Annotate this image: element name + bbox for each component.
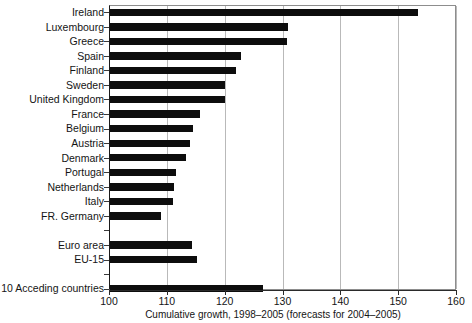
bar-row: Netherlands [0, 180, 472, 195]
y-tick [104, 27, 109, 28]
bar-label: EU-15 [74, 252, 104, 267]
bar-row-spacer [0, 267, 472, 282]
x-tick-label-120: 120 [216, 295, 234, 307]
bar-label: Euro area [58, 238, 104, 253]
bar-row: Luxembourg [0, 20, 472, 35]
bar [110, 9, 418, 16]
bar-label: Belgium [66, 121, 104, 136]
bar [110, 96, 225, 103]
bar-row: Denmark [0, 151, 472, 166]
x-tick-label-140: 140 [332, 295, 350, 307]
y-tick [104, 245, 109, 246]
bar-row: Austria [0, 136, 472, 151]
bar [110, 140, 190, 147]
x-tick-label-160: 160 [447, 295, 465, 307]
bar [110, 285, 263, 292]
bar-row: Finland [0, 63, 472, 78]
bar [110, 52, 241, 59]
x-tick-label-150: 150 [389, 295, 407, 307]
bar-row-spacer [0, 223, 472, 238]
bar [110, 198, 173, 205]
bar [110, 169, 176, 176]
y-tick [104, 99, 109, 100]
bar-label: United Kingdom [29, 92, 104, 107]
bar-label: Finland [70, 63, 104, 78]
bar-label: Portugal [65, 165, 104, 180]
y-tick [104, 172, 109, 173]
bar [110, 38, 287, 45]
bar-row: EU-15 [0, 252, 472, 267]
bar-row: Euro area [0, 238, 472, 253]
y-tick [104, 158, 109, 159]
bar-rows: IrelandLuxembourgGreeceSpainFinlandSwede… [0, 5, 472, 290]
y-tick [104, 129, 109, 130]
y-tick [104, 216, 109, 217]
x-tick-label-130: 130 [274, 295, 292, 307]
y-tick [104, 143, 109, 144]
bar-label: Denmark [61, 151, 104, 166]
bar [110, 67, 236, 74]
y-tick [104, 70, 109, 71]
bar [110, 256, 197, 263]
bar-row: Greece [0, 34, 472, 49]
y-tick [104, 187, 109, 188]
bar-row: 10 Acceding countries [0, 281, 472, 296]
bar-label: Spain [77, 49, 104, 64]
bar-label: FR. Germany [41, 209, 104, 224]
y-tick [104, 114, 109, 115]
bar [110, 81, 225, 88]
bar-row: Sweden [0, 78, 472, 93]
bar [110, 241, 192, 248]
bar-label: Greece [70, 34, 104, 49]
x-axis-caption: Cumulative growth, 1998–2005 (forecasts … [0, 309, 472, 320]
x-tick-label-100: 100 [100, 295, 118, 307]
x-axis-caption-text: Cumulative growth, 1998–2005 (forecasts … [71, 309, 401, 320]
y-tick [104, 85, 109, 86]
bar-row: France [0, 107, 472, 122]
bar-label: Netherlands [47, 180, 104, 195]
bar [110, 183, 174, 190]
bar-row: Portugal [0, 165, 472, 180]
bar [110, 110, 200, 117]
bar-label: France [71, 107, 104, 122]
bar-row: Belgium [0, 121, 472, 136]
bar-row: Ireland [0, 5, 472, 20]
bar-label: Austria [71, 136, 104, 151]
y-tick [104, 260, 109, 261]
chart-page: IrelandLuxembourgGreeceSpainFinlandSwede… [0, 0, 472, 323]
bar-row: Spain [0, 49, 472, 64]
bar-label: Luxembourg [46, 20, 104, 35]
bar-row: Italy [0, 194, 472, 209]
bar-row: FR. Germany [0, 209, 472, 224]
bar-label: Sweden [66, 78, 104, 93]
y-tick [104, 41, 109, 42]
y-tick [104, 201, 109, 202]
bar [110, 125, 193, 132]
y-tick [104, 274, 109, 275]
bar [110, 23, 288, 30]
y-tick [104, 12, 109, 13]
bar-label: Ireland [72, 5, 104, 20]
x-tick-label-110: 110 [158, 295, 175, 307]
bar-label: Italy [85, 194, 104, 209]
bar-row: United Kingdom [0, 92, 472, 107]
bar-label: 10 Acceding countries [1, 281, 104, 296]
bar [110, 154, 186, 161]
y-tick [104, 56, 109, 57]
bar [110, 212, 161, 219]
y-tick [104, 230, 109, 231]
